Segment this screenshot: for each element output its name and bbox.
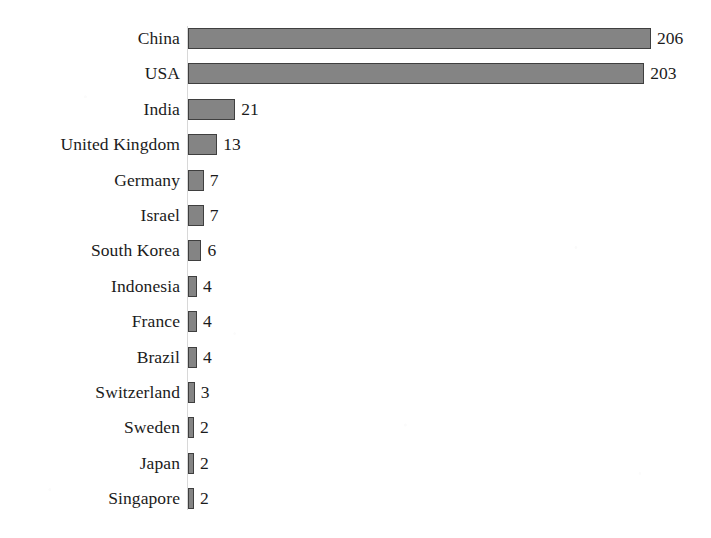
bar[interactable] bbox=[188, 134, 217, 155]
bar-row: Sweden2 bbox=[0, 417, 711, 438]
bar-value-label: 2 bbox=[200, 488, 209, 509]
bar-value-label: 2 bbox=[200, 453, 209, 474]
bar-category-label: Israel bbox=[141, 205, 180, 226]
bar[interactable] bbox=[188, 347, 197, 368]
bar-value-label: 203 bbox=[650, 63, 676, 84]
bar-row: Switzerland3 bbox=[0, 382, 711, 403]
bar-category-label: China bbox=[138, 28, 180, 49]
bar-category-label: Germany bbox=[114, 170, 180, 191]
bar-value-label: 2 bbox=[200, 417, 209, 438]
bar-category-label: India bbox=[144, 99, 180, 120]
bar-row: Singapore2 bbox=[0, 488, 711, 509]
bar-value-label: 206 bbox=[657, 28, 683, 49]
bar-row: Brazil4 bbox=[0, 347, 711, 368]
bar-value-label: 7 bbox=[210, 205, 219, 226]
bar-row: USA203 bbox=[0, 63, 711, 84]
bar[interactable] bbox=[188, 99, 235, 120]
bar-row: Japan2 bbox=[0, 453, 711, 474]
bar-category-label: United Kingdom bbox=[60, 134, 180, 155]
bar-row: Indonesia4 bbox=[0, 276, 711, 297]
bar-category-label: Singapore bbox=[108, 488, 180, 509]
bar-value-label: 7 bbox=[210, 170, 219, 191]
bar-category-label: Sweden bbox=[124, 417, 180, 438]
bar-row: Germany7 bbox=[0, 170, 711, 191]
bar[interactable] bbox=[188, 170, 204, 191]
bar-category-label: Indonesia bbox=[111, 276, 180, 297]
bar-value-label: 4 bbox=[203, 311, 212, 332]
bar-value-label: 4 bbox=[203, 276, 212, 297]
bar-row: United Kingdom13 bbox=[0, 134, 711, 155]
bar-category-label: Switzerland bbox=[95, 382, 180, 403]
bar-category-label: Brazil bbox=[137, 347, 180, 368]
bar[interactable] bbox=[188, 63, 644, 84]
bar-category-label: USA bbox=[145, 63, 180, 84]
bar-category-label: Japan bbox=[140, 453, 180, 474]
bar[interactable] bbox=[188, 205, 204, 226]
bar-value-label: 3 bbox=[201, 382, 210, 403]
bar[interactable] bbox=[188, 276, 197, 297]
bar[interactable] bbox=[188, 453, 194, 474]
bar[interactable] bbox=[188, 382, 195, 403]
bar-row: India21 bbox=[0, 99, 711, 120]
bar-row: South Korea6 bbox=[0, 240, 711, 261]
bar-category-label: South Korea bbox=[91, 240, 180, 261]
bar[interactable] bbox=[188, 240, 201, 261]
bar-row: Israel7 bbox=[0, 205, 711, 226]
bar-row: China206 bbox=[0, 28, 711, 49]
bar-category-label: France bbox=[132, 311, 180, 332]
bar[interactable] bbox=[188, 417, 194, 438]
bar-value-label: 21 bbox=[241, 99, 259, 120]
bar-value-label: 13 bbox=[223, 134, 241, 155]
bar-chart: China206USA203India21United Kingdom13Ger… bbox=[0, 0, 711, 538]
bar[interactable] bbox=[188, 488, 194, 509]
bar-value-label: 4 bbox=[203, 347, 212, 368]
bar-row: France4 bbox=[0, 311, 711, 332]
bar-value-label: 6 bbox=[207, 240, 216, 261]
plot-area: China206USA203India21United Kingdom13Ger… bbox=[0, 0, 711, 538]
bar[interactable] bbox=[188, 311, 197, 332]
bar[interactable] bbox=[188, 28, 651, 49]
